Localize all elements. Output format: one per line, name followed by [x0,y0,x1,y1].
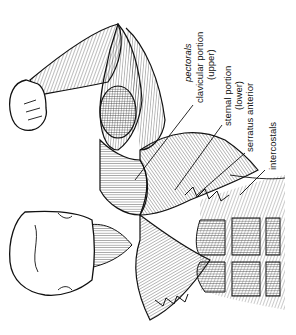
label-clavicular-upper: (upper) [205,49,216,80]
label-sternal-lower: (lower) [233,81,244,110]
label-serratus-anterior: serratus anterior [244,83,255,152]
label-sternal-portion: sternal portion [222,66,233,126]
label-pectorals: pectorals [182,43,193,83]
label-clavicular-portion: clavicular portion [194,32,205,103]
fist [10,80,47,130]
muscle-anatomy-diagram: pectorals clavicular portion (upper) ste… [0,0,296,335]
label-intercostals: intercostals [267,122,278,170]
head [10,211,95,295]
